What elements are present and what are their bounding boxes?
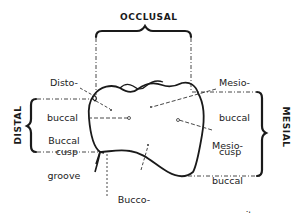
occlusal-brace bbox=[96, 26, 191, 37]
root-line-left bbox=[95, 152, 100, 172]
distal-label: DISTAL bbox=[13, 105, 23, 145]
occlusal-ridge-line bbox=[120, 81, 163, 89]
leader-mesiobuccal-concavity bbox=[179, 120, 212, 130]
distal-brace bbox=[27, 99, 36, 152]
buccogingival-ridge-label: Bucco- gingival ridge bbox=[113, 171, 155, 213]
buccal-groove-label: Buccal groove bbox=[46, 112, 82, 204]
leader-distobuccal-cusp bbox=[80, 88, 96, 97]
tooth-diagram: OCCLUSAL DISTAL MESIAL Disto- buccal cus… bbox=[0, 0, 292, 213]
leader-mesiobuccal-cusp bbox=[152, 89, 216, 107]
mesial-label: MESIAL bbox=[281, 106, 291, 148]
leader-distobuccal-cusp-2 bbox=[96, 101, 110, 109]
occlusal-label: OCCLUSAL bbox=[120, 12, 178, 22]
mesiobuccal-concavity-label: Mesio- buccal concavity bbox=[212, 117, 262, 213]
tooth-outline bbox=[89, 83, 204, 177]
